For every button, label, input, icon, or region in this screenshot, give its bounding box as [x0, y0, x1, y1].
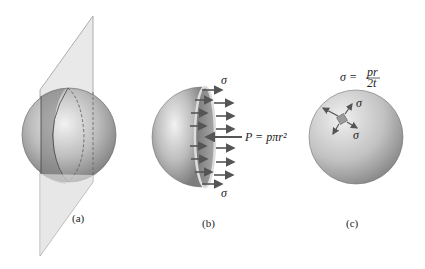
- force-label: P = pπr²: [244, 130, 287, 144]
- stress-label-bottom: σ: [221, 186, 228, 200]
- panel-b: σ σ P = pπr² (b): [152, 73, 287, 230]
- panel-a-label: (a): [72, 212, 85, 225]
- formula-denominator: 2t: [367, 76, 377, 90]
- panel-c: σ σ σ = pr 2t (c): [309, 65, 403, 230]
- formula-lhs: σ =: [340, 70, 357, 84]
- cutting-plane-front: [40, 174, 93, 256]
- stress-label-top: σ: [221, 73, 228, 87]
- sphere: [22, 88, 116, 182]
- hoop-stress-formula: σ = pr 2t: [340, 65, 380, 90]
- figure-canvas: (a) σ σ P = pπr² (b): [0, 0, 425, 269]
- panel-b-label: (b): [202, 217, 215, 230]
- panel-c-label: (c): [346, 217, 359, 230]
- panel-a: (a): [22, 16, 116, 256]
